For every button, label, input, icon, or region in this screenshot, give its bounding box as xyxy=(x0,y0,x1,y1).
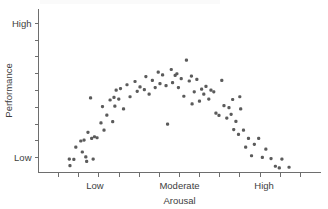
data-point xyxy=(175,72,178,75)
data-point xyxy=(238,95,241,98)
y-tick-label-high: High xyxy=(12,18,32,29)
data-point xyxy=(84,155,87,158)
data-point xyxy=(287,166,290,169)
data-point xyxy=(278,166,281,169)
data-point xyxy=(190,74,193,77)
data-point xyxy=(182,95,185,98)
data-point xyxy=(239,107,242,110)
data-point xyxy=(214,112,217,115)
data-point xyxy=(204,85,207,88)
data-point xyxy=(180,77,183,80)
data-point xyxy=(230,113,233,116)
data-point xyxy=(113,104,116,107)
data-point xyxy=(158,82,161,85)
x-tick-label-high: High xyxy=(254,180,274,191)
data-point xyxy=(207,97,210,100)
data-point xyxy=(82,138,85,141)
y-tick-label-low: Low xyxy=(14,152,32,163)
data-point xyxy=(171,81,174,84)
data-point xyxy=(209,89,212,92)
data-point xyxy=(102,129,105,132)
data-point xyxy=(193,90,196,93)
data-point xyxy=(227,106,230,109)
data-point xyxy=(86,131,89,134)
data-point xyxy=(74,145,77,148)
data-point xyxy=(222,104,225,107)
data-point xyxy=(161,73,164,76)
data-point xyxy=(101,105,104,108)
data-point xyxy=(136,90,139,93)
x-tick-label-moderate: Moderate xyxy=(159,180,199,191)
data-point xyxy=(217,114,220,117)
data-point xyxy=(89,96,92,99)
data-point xyxy=(264,148,267,151)
data-point xyxy=(128,95,131,98)
data-point xyxy=(108,98,111,101)
data-point xyxy=(119,87,122,90)
x-axis-title: Arousal xyxy=(163,195,195,206)
data-point xyxy=(68,157,71,160)
data-point xyxy=(105,114,108,117)
axes-layer xyxy=(39,9,321,173)
data-point xyxy=(231,98,234,101)
data-point xyxy=(177,86,180,89)
data-point xyxy=(148,93,151,96)
data-point xyxy=(143,88,146,91)
data-point xyxy=(144,75,147,78)
data-point xyxy=(95,136,98,139)
y-axis-title: Performance xyxy=(3,63,14,117)
data-point xyxy=(79,139,82,142)
data-point xyxy=(115,89,118,92)
data-point xyxy=(185,59,188,62)
data-point xyxy=(220,79,223,82)
data-point xyxy=(280,157,283,160)
data-point xyxy=(237,133,240,136)
data-point xyxy=(244,145,247,148)
data-point xyxy=(138,85,141,88)
tick-marks-layer xyxy=(35,23,301,176)
data-point xyxy=(72,158,75,161)
data-point xyxy=(253,143,256,146)
data-point xyxy=(261,156,264,159)
data-point xyxy=(154,86,157,89)
data-point xyxy=(274,165,277,168)
axis-labels-layer: HighLowLowModerateHighArousalPerformance xyxy=(3,18,274,206)
data-point xyxy=(200,88,203,91)
data-point xyxy=(81,150,84,153)
data-point xyxy=(125,83,128,86)
data-points-layer xyxy=(68,59,291,170)
data-point xyxy=(225,116,228,119)
data-point xyxy=(92,157,95,160)
data-point xyxy=(198,100,201,103)
data-point xyxy=(133,80,136,83)
data-point xyxy=(68,164,71,167)
data-point xyxy=(247,137,250,140)
data-point xyxy=(242,129,245,132)
data-point xyxy=(269,157,272,160)
scatter-plot-figure: HighLowLowModerateHighArousalPerformance xyxy=(0,0,328,209)
data-point xyxy=(166,123,169,126)
data-point xyxy=(99,121,102,124)
cropped-caption-strip xyxy=(40,0,220,4)
x-tick-label-low: Low xyxy=(86,180,104,191)
data-point xyxy=(232,128,235,131)
data-point xyxy=(112,96,115,99)
data-point xyxy=(151,79,154,82)
data-point xyxy=(170,68,173,71)
data-point xyxy=(111,120,114,123)
data-point xyxy=(122,107,125,110)
data-point xyxy=(117,97,120,100)
data-point xyxy=(164,84,167,87)
data-point xyxy=(188,79,191,82)
data-point xyxy=(157,71,160,74)
chart-canvas: HighLowLowModerateHighArousalPerformance xyxy=(0,0,328,209)
cropped-title-remnant xyxy=(40,0,220,4)
data-point xyxy=(90,137,93,140)
data-point xyxy=(85,160,88,163)
data-point xyxy=(250,154,253,157)
data-point xyxy=(234,120,237,123)
data-point xyxy=(257,137,260,140)
data-point xyxy=(212,90,215,93)
data-point xyxy=(190,102,193,105)
data-point xyxy=(195,78,198,81)
